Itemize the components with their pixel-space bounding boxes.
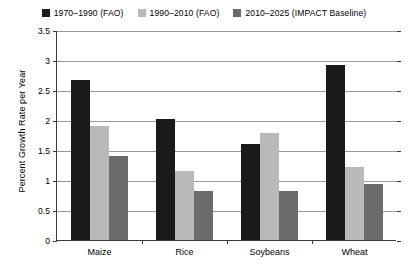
bar-group-bars bbox=[156, 30, 213, 240]
y-axis-tick-mark-right bbox=[397, 241, 401, 242]
bar bbox=[241, 144, 260, 240]
y-axis-tick-label: 2.5 bbox=[38, 87, 50, 96]
y-axis-tick-mark bbox=[53, 91, 57, 92]
bar bbox=[260, 133, 279, 240]
bar-group-bars bbox=[241, 30, 298, 240]
bar-group bbox=[326, 30, 383, 240]
y-axis-tick-mark-right bbox=[397, 181, 401, 182]
legend-item: 2010–2025 (IMPACT Baseline) bbox=[233, 8, 366, 18]
y-axis-tick-mark bbox=[53, 241, 57, 242]
y-axis-tick-mark bbox=[53, 211, 57, 212]
x-axis-tick-label: Rice bbox=[175, 247, 193, 257]
bar bbox=[90, 126, 109, 240]
y-axis-tick-mark bbox=[53, 61, 57, 62]
bar bbox=[279, 191, 298, 240]
chart-legend: 1970–1990 (FAO)1990–2010 (FAO)2010–2025 … bbox=[0, 8, 408, 18]
y-axis-title: Percent Growth Rate per Year bbox=[17, 56, 27, 206]
legend-item-label: 1970–1990 (FAO) bbox=[54, 8, 124, 18]
bar bbox=[175, 171, 194, 240]
x-axis-tick-mark bbox=[227, 240, 228, 244]
y-axis-tick-mark-right bbox=[397, 121, 401, 122]
y-axis-tick-mark-right bbox=[397, 91, 401, 92]
bar bbox=[71, 80, 90, 240]
x-axis-tick-label: Soybeans bbox=[249, 247, 289, 257]
x-axis-tick-label: Maize bbox=[87, 247, 111, 257]
legend-item-label: 2010–2025 (IMPACT Baseline) bbox=[245, 8, 366, 18]
bar-group bbox=[71, 30, 128, 240]
legend-item-label: 1990–2010 (FAO) bbox=[150, 8, 220, 18]
bar bbox=[194, 191, 213, 240]
y-axis-tick-label: 0.5 bbox=[38, 207, 50, 216]
bar-group bbox=[241, 30, 298, 240]
legend-swatch-icon bbox=[42, 9, 50, 17]
x-axis-tick-mark bbox=[142, 240, 143, 244]
legend-swatch-icon bbox=[138, 9, 146, 17]
y-axis-tick-label: 1.5 bbox=[38, 147, 50, 156]
bar bbox=[326, 65, 345, 240]
bar bbox=[156, 119, 175, 240]
y-axis-tick-mark bbox=[53, 121, 57, 122]
y-axis-tick-mark-right bbox=[397, 151, 401, 152]
legend-swatch-icon bbox=[233, 9, 241, 17]
legend-item: 1970–1990 (FAO) bbox=[42, 8, 124, 18]
y-axis-tick-mark-right bbox=[397, 61, 401, 62]
bar bbox=[345, 167, 364, 240]
bar-group bbox=[156, 30, 213, 240]
y-axis-tick-label: 3 bbox=[45, 57, 50, 66]
y-axis-tick-mark-right bbox=[397, 31, 401, 32]
y-axis-tick-mark bbox=[53, 31, 57, 32]
y-axis-tick-mark bbox=[53, 181, 57, 182]
y-axis-tick-label: 2 bbox=[45, 117, 50, 126]
x-axis-tick-label: Wheat bbox=[341, 247, 367, 257]
bar-group-bars bbox=[326, 30, 383, 240]
y-axis-tick-label: 1 bbox=[45, 177, 50, 186]
bar-group-bars bbox=[71, 30, 128, 240]
plot-area: 00.511.522.533.5MaizeRiceSoybeansWheat bbox=[56, 31, 396, 241]
y-axis-tick-mark bbox=[53, 151, 57, 152]
bar bbox=[109, 156, 128, 240]
x-axis-tick-mark bbox=[312, 240, 313, 244]
legend-item: 1990–2010 (FAO) bbox=[138, 8, 220, 18]
bar-chart: 1970–1990 (FAO)1990–2010 (FAO)2010–2025 … bbox=[0, 0, 408, 277]
bar bbox=[364, 184, 383, 240]
y-axis-tick-label: 3.5 bbox=[38, 27, 50, 36]
y-axis-tick-label: 0 bbox=[45, 237, 50, 246]
y-axis-tick-mark-right bbox=[397, 211, 401, 212]
